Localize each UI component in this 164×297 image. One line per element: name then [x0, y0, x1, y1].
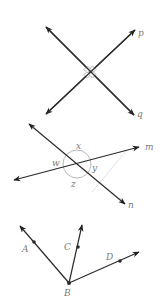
line-n: [29, 124, 125, 204]
label-d: D: [105, 252, 113, 262]
ray-bd: [69, 252, 139, 283]
figure-perpendicular-lines: p q: [46, 27, 144, 119]
point-b: [67, 281, 71, 285]
label-p: p: [138, 28, 144, 38]
label-c: C: [64, 242, 71, 252]
figure-rays-from-b: A C D B: [20, 225, 139, 297]
label-angle-y: y: [91, 163, 98, 173]
point-d: [118, 259, 122, 263]
label-m: m: [145, 142, 154, 152]
label-n: n: [128, 200, 134, 210]
label-angle-w: w: [52, 158, 60, 168]
point-c: [76, 245, 80, 249]
label-q: q: [137, 109, 143, 119]
label-angle-z: z: [70, 179, 76, 189]
label-a: A: [21, 244, 29, 254]
ray-ba: [20, 226, 69, 283]
label-b: B: [63, 288, 71, 297]
point-a: [32, 240, 36, 244]
label-angle-x: x: [76, 141, 81, 151]
geometry-diagrams: p q m n x w y z A C D B: [0, 0, 164, 297]
figure-intersecting-lines: m n x w y z: [14, 124, 154, 210]
ray-bc: [69, 225, 82, 283]
faint-ray: [92, 151, 126, 192]
